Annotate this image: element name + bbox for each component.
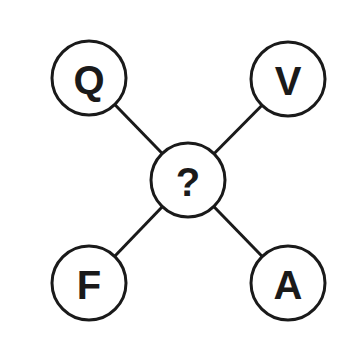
letter-puzzle-diagram: Q V F A ?	[0, 0, 352, 359]
node-q: Q	[52, 41, 126, 115]
node-v: V	[251, 42, 325, 116]
question-mark-label: ?	[176, 160, 200, 204]
node-q-label: Q	[73, 58, 104, 102]
node-a-label: A	[274, 263, 303, 307]
node-a: A	[251, 246, 325, 320]
node-f: F	[52, 246, 126, 320]
node-f-label: F	[77, 263, 101, 307]
node-center: ?	[151, 143, 225, 217]
node-v-label: V	[275, 59, 302, 103]
